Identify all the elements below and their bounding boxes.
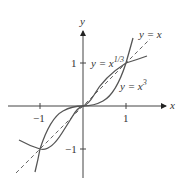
label-identity: y = x (138, 28, 162, 40)
function-graph: x y −1 1 1 −1 y = x y = x1/3 y = x3 (0, 0, 185, 182)
y-tick-label-1: 1 (71, 57, 77, 69)
label-cube-root: y = x1/3 (90, 55, 124, 69)
x-axis-label: x (169, 99, 175, 111)
label-cube-root-exp: 1/3 (114, 55, 124, 64)
label-cube-exp: 3 (142, 78, 147, 87)
label-cube-base: y = x (119, 80, 143, 92)
label-cube: y = x3 (119, 78, 147, 92)
label-cube-root-base: y = x (90, 57, 114, 69)
x-tick-label-1: 1 (123, 112, 129, 124)
y-axis-label: y (79, 15, 85, 27)
y-tick-label-neg1: −1 (65, 143, 77, 155)
x-tick-label-neg1: −1 (33, 112, 45, 124)
